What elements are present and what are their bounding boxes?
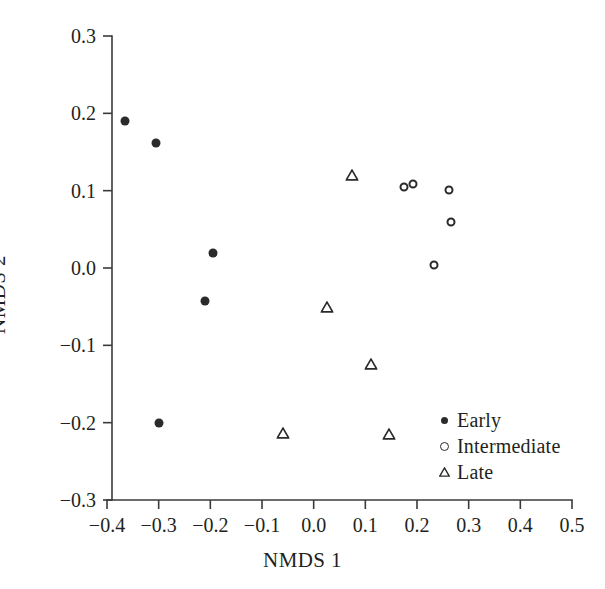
y-tick-label: 0.3 bbox=[0, 25, 102, 48]
y-tick-label: 0.1 bbox=[0, 179, 102, 202]
data-point-late bbox=[364, 358, 377, 370]
y-tick-label: −0.1 bbox=[0, 334, 102, 357]
x-tick-label: −0.4 bbox=[89, 514, 125, 537]
data-point-intermediate bbox=[429, 260, 438, 269]
data-point-early bbox=[201, 297, 210, 306]
x-tick-label: 0.5 bbox=[560, 514, 585, 537]
data-point-late bbox=[276, 427, 289, 439]
x-tick-marks bbox=[107, 500, 572, 509]
x-tick-label: −0.2 bbox=[192, 514, 228, 537]
open-circle-icon bbox=[434, 442, 454, 451]
filled-circle-icon bbox=[434, 417, 454, 424]
x-axis-title: NMDS 1 bbox=[0, 548, 605, 573]
legend-item-early[interactable]: Early bbox=[434, 407, 560, 433]
data-point-early bbox=[154, 419, 163, 428]
x-axis-title-text: NMDS 1 bbox=[263, 548, 342, 572]
legend-item-label: Late bbox=[454, 459, 493, 485]
data-point-early bbox=[152, 138, 161, 147]
data-point-late bbox=[382, 428, 395, 440]
legend-item-late[interactable]: Late bbox=[434, 459, 560, 485]
x-tick-label: 0.3 bbox=[456, 514, 481, 537]
data-point-late bbox=[346, 169, 359, 181]
x-tick-label: −0.3 bbox=[141, 514, 177, 537]
data-point-early bbox=[121, 117, 130, 126]
legend-item-label: Early bbox=[454, 407, 501, 433]
x-tick-label: −0.1 bbox=[244, 514, 280, 537]
legend-item-intermediate[interactable]: Intermediate bbox=[434, 433, 560, 459]
y-tick-label: −0.2 bbox=[0, 411, 102, 434]
y-tick-marks bbox=[103, 36, 112, 500]
legend: EarlyIntermediateLate bbox=[434, 407, 560, 485]
y-tick-label: −0.3 bbox=[0, 489, 102, 512]
data-point-intermediate bbox=[400, 182, 409, 191]
x-tick-label: 0.1 bbox=[353, 514, 378, 537]
data-point-intermediate bbox=[445, 185, 454, 194]
data-point-late bbox=[320, 301, 333, 313]
x-tick-label: 0.2 bbox=[405, 514, 430, 537]
data-point-intermediate bbox=[408, 179, 417, 188]
data-point-intermediate bbox=[446, 218, 455, 227]
y-tick-label: 0.2 bbox=[0, 102, 102, 125]
triangle-icon bbox=[434, 467, 454, 477]
x-tick-label: 0.0 bbox=[301, 514, 326, 537]
legend-item-label: Intermediate bbox=[454, 433, 560, 459]
x-tick-label: 0.4 bbox=[508, 514, 533, 537]
y-tick-label: 0.0 bbox=[0, 257, 102, 280]
nmds-ordination-figure: −0.3−0.2−0.10.00.10.20.3 −0.4−0.3−0.2−0.… bbox=[0, 0, 605, 589]
data-point-early bbox=[208, 248, 217, 257]
